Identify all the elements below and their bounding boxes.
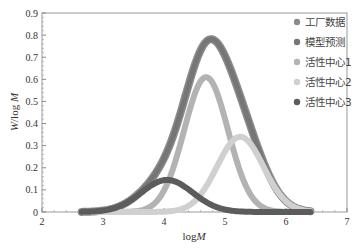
x-tick-label: 6	[284, 216, 289, 227]
y-tick-label: 0.5	[26, 96, 39, 107]
plot-frame	[42, 13, 347, 212]
legend-marker-icon	[294, 59, 300, 65]
legend-label: 活性中心1	[305, 56, 352, 68]
legend-marker-icon	[294, 99, 300, 105]
x-tick-label: 7	[345, 216, 350, 227]
legend-label: 活性中心2	[305, 76, 352, 88]
x-tick-label: 2	[40, 216, 45, 227]
y-tick-label: 0.6	[26, 74, 39, 85]
x-tick-label: 5	[223, 216, 228, 227]
curve-4	[82, 137, 311, 212]
y-tick-label: 0.3	[26, 140, 39, 151]
chart-canvas: 00.10.20.30.40.50.60.70.80.9 234567 工厂数据…	[0, 0, 363, 248]
y-tick-label: 0.8	[26, 30, 39, 41]
y-axis-ticks: 00.10.20.30.40.50.60.70.80.9	[26, 8, 47, 218]
legend-label: 模型预测	[305, 36, 345, 48]
y-tick-label: 0.9	[26, 8, 39, 19]
legend: 工厂数据模型预测活性中心1活性中心2活性中心3	[294, 16, 352, 108]
x-tick-label: 4	[162, 216, 167, 227]
y-axis-label: W/log M	[8, 92, 20, 131]
legend-marker-icon	[294, 79, 300, 85]
y-tick-label: 0.1	[26, 184, 39, 195]
legend-label: 工厂数据	[305, 16, 346, 28]
x-axis-label: logM	[182, 230, 206, 242]
curves	[82, 39, 311, 212]
y-tick-label: 0	[33, 207, 38, 218]
y-tick-label: 0.7	[26, 52, 39, 63]
legend-marker-icon	[294, 19, 300, 25]
y-tick-label: 0.2	[26, 162, 39, 173]
x-tick-label: 3	[101, 216, 106, 227]
y-tick-label: 0.4	[26, 118, 39, 129]
legend-marker-icon	[294, 39, 300, 45]
legend-label: 活性中心3	[305, 96, 352, 108]
